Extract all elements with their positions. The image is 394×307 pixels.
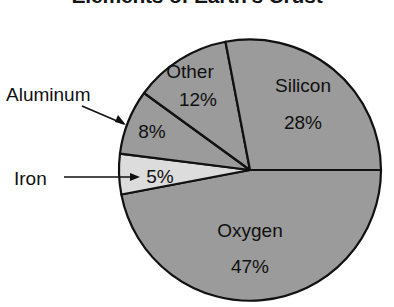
slice-label-other-pct: 12% (179, 89, 217, 110)
pie-chart-svg: Other 12% Silicon 28% Oxygen 47% 8% 5% A… (0, 0, 394, 307)
pie-chart-figure: Elements of Earth's Crust Other 12% Sili… (0, 0, 394, 307)
slice-label-aluminum-pct: 8% (138, 121, 166, 142)
pie-slice-silicon[interactable] (225, 39, 381, 170)
slice-label-iron-pct: 5% (146, 166, 174, 187)
slice-label-silicon-name: Silicon (275, 75, 331, 96)
callout-label-aluminum: Aluminum (6, 84, 90, 105)
callout-arrow-aluminum (115, 115, 126, 125)
slice-label-silicon-pct: 28% (284, 112, 322, 133)
callout-label-iron: Iron (14, 168, 47, 189)
callout-aluminum: Aluminum (6, 84, 126, 125)
slice-label-other-name: Other (166, 61, 214, 82)
slice-label-oxygen-pct: 47% (231, 256, 269, 277)
slice-label-oxygen-name: Oxygen (217, 220, 282, 241)
